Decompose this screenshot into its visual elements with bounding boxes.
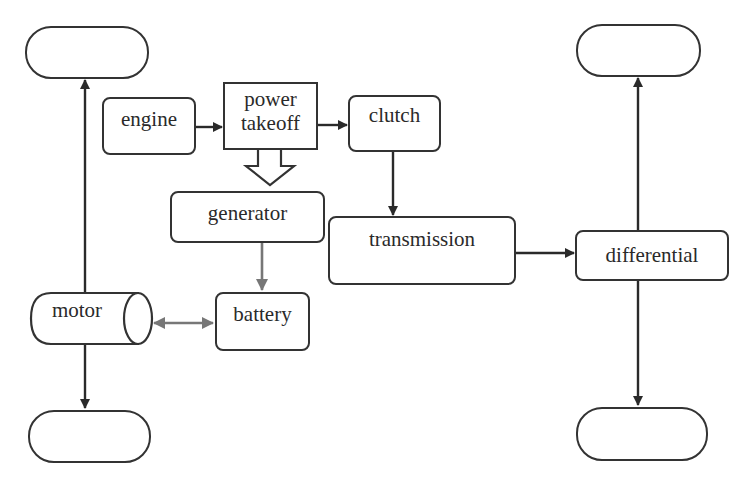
differential-label: differential (577, 244, 727, 266)
transmission-label: transmission (330, 228, 514, 250)
engine-node: engine (102, 97, 196, 155)
power-takeoff-label-line1: power (225, 88, 316, 110)
motor-label: motor (29, 299, 125, 321)
transmission-node: transmission (328, 216, 516, 285)
hollow-arrow-power-takeoff-to-generator (246, 149, 294, 185)
wheel-rear-right (576, 407, 708, 461)
wheel-front-left (25, 26, 149, 79)
battery-node: battery (215, 292, 310, 351)
clutch-node: clutch (348, 95, 441, 152)
power-takeoff-node: power takeoff (223, 82, 318, 150)
clutch-label: clutch (350, 104, 439, 126)
battery-label: battery (217, 303, 308, 325)
engine-label: engine (104, 108, 194, 130)
power-takeoff-label-line2: takeoff (225, 112, 316, 134)
motor-node: motor (29, 291, 155, 346)
generator-node: generator (170, 191, 325, 243)
wheel-rear-left (28, 410, 151, 463)
generator-label: generator (172, 202, 323, 224)
wheel-front-right (576, 24, 701, 77)
differential-node: differential (575, 230, 729, 281)
